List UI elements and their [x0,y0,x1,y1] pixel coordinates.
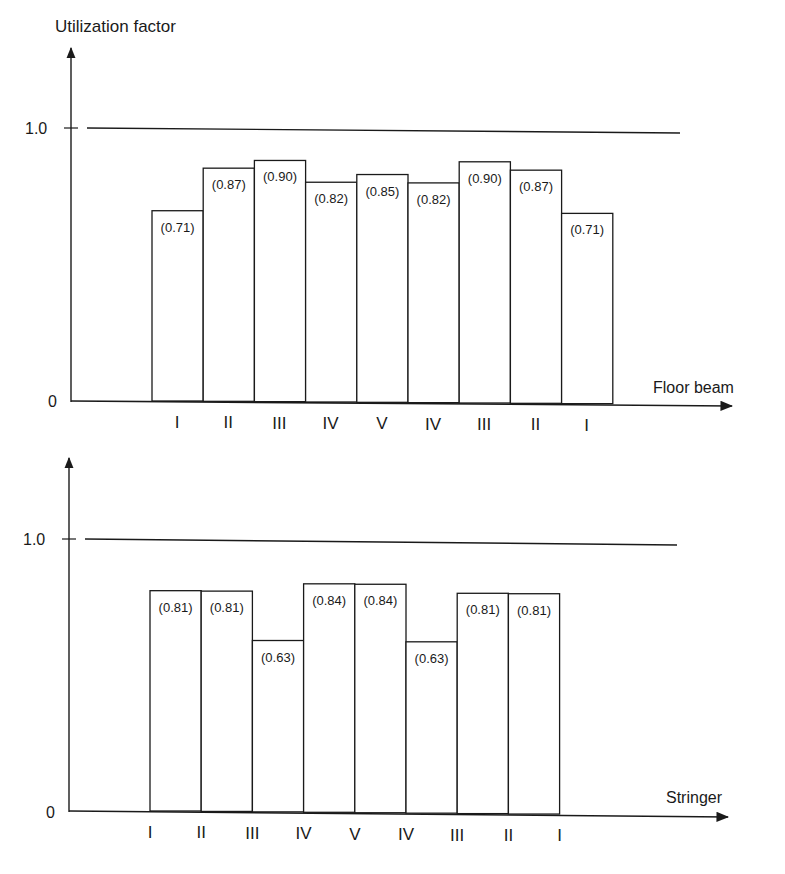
bar [406,642,457,813]
bar-value-label: (0.81) [517,603,551,618]
x-tick-label: III [477,415,491,434]
x-tick-label: I [584,416,589,435]
bar [152,211,203,401]
x-tick-label: IV [296,824,313,843]
x-tick-label: II [504,826,513,845]
reference-line-1 [87,128,680,133]
bar-value-label: (0.81) [159,600,193,615]
x-axis-title: Floor beam [653,379,734,396]
x-tick-label: IV [323,414,340,433]
bar [510,170,561,403]
bar-value-label: (0.84) [363,593,397,608]
stringer-chart: 1.0 0 Stringer (0.81)(0.81)(0.63)(0.84)(… [23,458,728,845]
floor-beam-chart: Utilization factor 1.0 0 Floor beam (0.7… [25,17,734,435]
y-tick-label-1: 1.0 [25,120,47,137]
x-tick-label: III [450,826,464,845]
y-tick-label-1: 1.0 [23,531,45,548]
bar-value-label: (0.85) [365,184,399,199]
x-tick-label: III [245,824,259,843]
bar [254,160,305,401]
x-tick-label: III [272,414,286,433]
x-tick-label: II [531,415,540,434]
bar-value-label: (0.82) [314,191,348,206]
y-tick-label-0: 0 [46,804,55,821]
bar-value-label: (0.84) [312,593,346,608]
bar-value-label: (0.82) [417,192,451,207]
bar [408,183,459,403]
bar-value-label: (0.71) [161,220,195,235]
bar-series: (0.81)(0.81)(0.63)(0.84)(0.84)(0.63)(0.8… [150,584,560,814]
x-tick-label: I [175,413,180,432]
bar-series: (0.71)(0.87)(0.90)(0.82)(0.85)(0.82)(0.9… [152,160,613,403]
x-tick-label: IV [398,825,415,844]
bar-value-label: (0.81) [210,600,244,615]
x-tick-label: IV [425,415,442,434]
bar-value-label: (0.63) [415,651,449,666]
x-tick-label: I [557,826,562,845]
x-tick-label: II [223,413,232,432]
bar [252,641,303,812]
y-axis-title: Utilization factor [55,17,176,36]
bar [457,593,508,813]
reference-line-1 [85,539,677,545]
bar [562,213,613,403]
bar [357,175,408,403]
utilization-charts: Utilization factor 1.0 0 Floor beam (0.7… [0,0,785,874]
bar [508,594,559,814]
x-tick-labels: IIIIIIIVVIVIIIIII [148,823,562,845]
bar-value-label: (0.71) [570,222,604,237]
bar [150,591,201,811]
x-tick-label: II [196,823,205,842]
x-tick-label: V [349,825,361,844]
bar [459,162,510,403]
x-tick-label: I [148,823,153,842]
bar-value-label: (0.87) [212,177,246,192]
x-tick-labels: IIIIIIIVVIVIIIIII [175,413,589,435]
x-tick-label: V [376,414,388,433]
bar-value-label: (0.81) [466,602,500,617]
bar [355,584,406,812]
bar-value-label: (0.63) [261,650,295,665]
bar [304,584,355,812]
bar-value-label: (0.90) [468,171,502,186]
bar-value-label: (0.87) [519,179,553,194]
bar [306,182,357,402]
x-axis-title: Stringer [666,789,723,806]
bar-value-label: (0.90) [263,169,297,184]
y-tick-label-0: 0 [48,393,57,410]
bar [203,168,254,401]
bar [201,591,252,811]
